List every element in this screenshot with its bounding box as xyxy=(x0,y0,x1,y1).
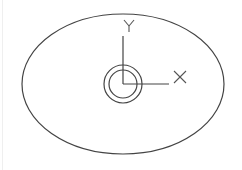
drawing-canvas: Y X xyxy=(0,0,242,170)
x-axis-label-glyph xyxy=(174,71,186,83)
x-axis-label: X xyxy=(180,79,181,80)
cad-drawing: Y X xyxy=(0,0,242,170)
y-axis-label: Y xyxy=(129,30,130,31)
